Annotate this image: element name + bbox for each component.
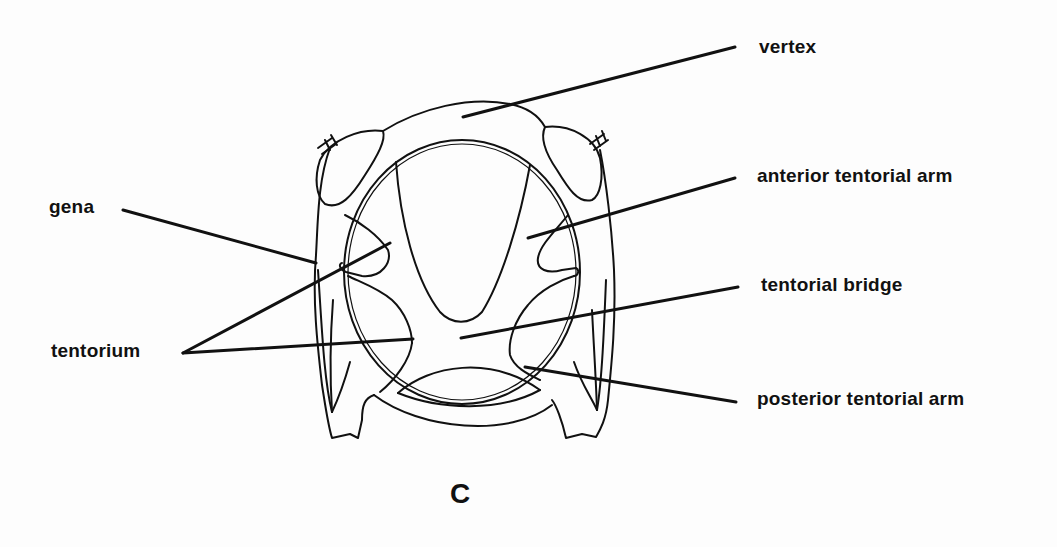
panel-label: C [450,478,470,510]
leader-gena [123,210,316,263]
leader-vertex [463,47,735,117]
compound-eyes [317,127,608,206]
label-vertex: vertex [759,36,816,58]
leader-lines [123,47,738,402]
leader-posterior-tentorial-arm [525,367,736,402]
leader-tentorium-lower [183,339,413,353]
leader-anterior-tentorial-arm [528,178,735,238]
label-anterior-tentorial-arm: anterior tentorial arm [757,165,953,187]
leader-tentorial-bridge [461,287,738,338]
label-tentorial-bridge: tentorial bridge [761,274,903,296]
label-gena: gena [49,196,94,218]
label-posterior-tentorial-arm: posterior tentorial arm [757,388,964,410]
right-eye [543,127,601,201]
label-tentorium: tentorium [51,340,140,362]
